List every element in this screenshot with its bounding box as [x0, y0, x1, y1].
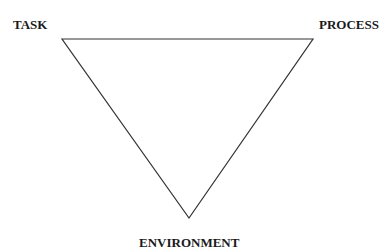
label-task: TASK [13, 18, 47, 31]
triangle-shape [62, 39, 313, 218]
label-process: PROCESS [319, 18, 379, 31]
triangle-diagram [0, 0, 385, 249]
label-environment: ENVIRONMENT [139, 236, 239, 249]
